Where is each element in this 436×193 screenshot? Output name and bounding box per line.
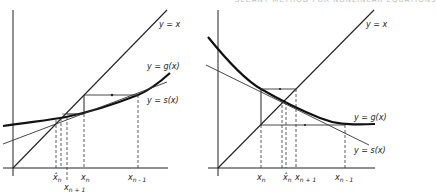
right-tick-xhat-n: x̂n <box>282 172 292 183</box>
right-tick-x-n-plus-1: xn + 1 <box>294 173 316 183</box>
left-identity-line <box>13 10 167 168</box>
left-arrow-dot <box>111 94 113 96</box>
right-s-line <box>206 65 369 145</box>
right-arrow-dot-bottom <box>304 124 306 126</box>
left-tick-x-n-plus-1: xn + 1 <box>63 183 85 193</box>
right-label-g: y = g(x) <box>353 113 387 122</box>
right-label-s: y = s(x) <box>353 146 386 155</box>
left-g-curve <box>3 73 170 126</box>
left-tick-x-n-minus-1: xn - 1 <box>127 173 146 183</box>
right-tick-x-n-minus-1: xn - 1 <box>334 173 353 183</box>
left-label-g: y = g(x) <box>146 62 180 71</box>
left-panel: y = x y = g(x) y = s(x) x̂n xn + 1 xn xn… <box>3 10 181 193</box>
right-g-curve <box>208 37 375 124</box>
left-s-line <box>3 82 167 144</box>
left-label-identity: y = x <box>158 20 181 29</box>
right-arrow-dot-top <box>279 88 281 90</box>
right-label-identity: y = x <box>365 20 388 29</box>
left-label-s: y = s(x) <box>146 96 179 105</box>
left-tick-x-n: xn <box>80 173 90 183</box>
right-tick-x-n: xn <box>256 173 266 183</box>
right-panel: y = x y = g(x) y = s(x) xn x̂n xn + 1 xn… <box>206 10 388 183</box>
left-tick-xhat-n: x̂n <box>52 172 62 183</box>
